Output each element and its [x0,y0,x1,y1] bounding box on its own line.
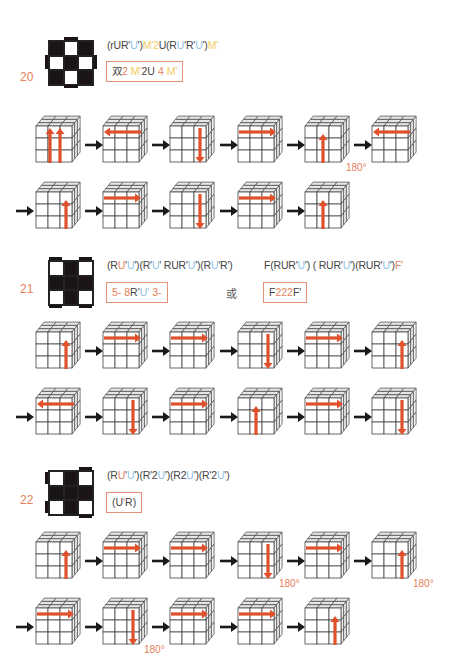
cube-step [235,386,285,444]
cube-step [100,386,150,444]
algorithm-formula: (RU'U')(R'U' RUR'U')(RU'R') [107,259,233,271]
pattern-edge-bar [79,467,92,470]
cube-up-right-icon [302,596,352,650]
cube-left-top-icon [100,114,150,168]
formula-segment: U [186,469,193,481]
pattern-edge-bar [79,305,92,308]
formula-segment: ') [224,469,229,481]
cube-down-right-icon [235,530,285,584]
formula-segment: ')(RUR' [350,259,382,271]
cube-step [302,180,352,238]
next-arrow-icon [16,202,34,212]
cube-left-top-icon [369,114,419,168]
pattern-diagram [48,40,94,86]
cube-right-top-icon [235,114,285,168]
formula-segment: U [118,259,125,271]
formula-segment: M' [208,39,218,51]
step-row [0,180,472,240]
formula-segment: M'2 [143,39,159,51]
formula-segment: 2 [122,65,128,77]
cube-step [302,114,352,172]
rotation-degree: 180° [346,162,367,173]
cube-right-top-icon [235,180,285,234]
formula-segment: 4 [155,65,167,77]
cube-up-middle-icon [302,114,352,168]
cube-step [302,320,352,378]
rotation-degree: 180° [413,578,434,589]
cube-step [100,114,150,172]
formula-segment: F' [395,259,403,271]
cube-step [167,596,217,654]
pattern-edge-bar [49,305,62,308]
cube-step [369,530,419,588]
cube-up-right-icon [33,180,83,234]
finger-trick-notation: 双2 M'2U 4 M' [106,61,183,82]
formula-segment: U [130,39,137,51]
pattern-cell [64,56,79,71]
cube-step [235,596,285,654]
formula-segment: ') ( RUR' [305,259,343,271]
cube-step [33,596,83,654]
cube-down-right-icon [100,596,150,650]
formula-segment: U [297,259,304,271]
cube-right-top-icon [100,320,150,374]
finger-trick-notation: 5- 8R'U' 3- [106,282,168,303]
pattern-cell [49,471,64,486]
cube-step [369,114,419,172]
pattern-edge-bar [45,501,48,513]
pattern-cell [49,500,64,515]
cube-down-right-icon [235,320,285,374]
formula-segment: R) [125,496,136,508]
pattern-cell [64,41,79,56]
cube-down-right-icon [167,180,217,234]
case-number: 21 [20,282,33,296]
case-number: 20 [20,70,33,84]
formula-segment: U [343,259,350,271]
pattern-cell [49,276,64,291]
cube-right-top-icon [167,596,217,650]
pattern-cell [78,500,93,515]
case-number: 22 [20,493,33,507]
cube-step [100,180,150,238]
cube-up-right-icon [33,530,83,584]
cube-up-right-icon [33,320,83,374]
cube-step [33,114,83,172]
or-label: 或 [226,285,237,301]
cube-right-top-icon [33,596,83,650]
cube-step [235,320,285,378]
formula-segment: 222 [275,286,293,298]
algorithm-formula: (RU'U')(R'2U')(R2U')(R'2U') [107,469,229,481]
pattern-cell [78,261,93,276]
formula-segment: 5- [112,286,121,298]
pattern-cell [64,290,79,305]
step-row [0,386,472,446]
cube-up-double-icon [33,114,83,168]
alternative-formula: F(RUR'U') ( RUR'U')(RUR'U')F' [264,259,403,271]
pattern-cell [78,486,93,501]
case-section-20: 20(rUR'U')M'2U(RU'R'U')M'双2 M'2U 4 M'180… [0,38,472,238]
pattern-cell [64,500,79,515]
cube-step [33,530,83,588]
cube-right-top-icon [100,180,150,234]
cube-step [302,386,352,444]
formula-segment: ')(R' [134,259,152,271]
cube-step [167,530,217,588]
cube-right-top-icon [302,530,352,584]
formula-segment: U [118,469,125,481]
formula-segment: M' [131,65,142,77]
cube-down-right-icon [167,114,217,168]
cube-down-right-icon [369,386,419,440]
cube-right-top-icon [167,530,217,584]
pattern-edge-bar [49,257,62,260]
cube-step [235,530,285,588]
cube-step [235,180,285,238]
formula-segment: ')(R'2 [134,469,157,481]
formula-segment: U(R [159,39,177,51]
pattern-edge-bar [79,257,92,260]
cube-step [167,386,217,444]
formula-segment: (R [107,259,118,271]
pattern-edge-bar [64,37,78,40]
cube-up-right-icon [369,320,419,374]
cube-right-top-icon [302,386,352,440]
formula-segment: ' RUR' [159,259,187,271]
